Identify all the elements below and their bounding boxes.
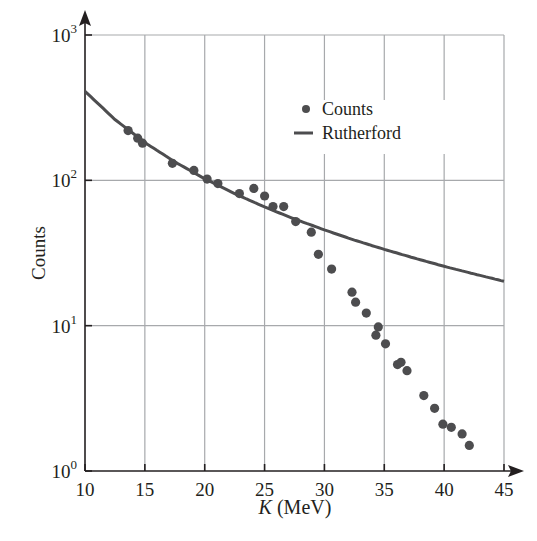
data-point (371, 331, 380, 340)
legend-label: Counts (322, 99, 373, 119)
data-point (347, 288, 356, 297)
data-point (314, 250, 323, 259)
data-point (351, 298, 360, 307)
x-tick-label: 15 (135, 479, 154, 500)
y-axis-label: Counts (28, 226, 49, 280)
y-tick-label: 101 (52, 312, 78, 337)
data-point (402, 366, 411, 375)
data-point (203, 175, 212, 184)
y-tick-label: 102 (52, 166, 78, 191)
chart-svg: 1015202530354045 100101102103 CountsRuth… (0, 0, 537, 541)
data-point (124, 126, 133, 135)
x-axis-label: K (MeV) (258, 496, 332, 519)
data-point (374, 322, 383, 331)
y-axis-ticks: 100101102103 (52, 21, 93, 482)
legend-dot-icon (302, 105, 310, 113)
data-point (235, 189, 244, 198)
data-point (291, 217, 300, 226)
rutherford-scattering-chart: 1015202530354045 100101102103 CountsRuth… (0, 0, 537, 541)
x-tick-label: 35 (375, 479, 394, 500)
counts-points (124, 126, 474, 450)
data-point (419, 391, 428, 400)
data-point (307, 228, 316, 237)
y-tick-label: 100 (52, 457, 78, 482)
data-point (438, 420, 447, 429)
data-point (268, 202, 277, 211)
data-point (138, 139, 147, 148)
data-point (396, 358, 405, 367)
x-tick-label: 45 (495, 479, 514, 500)
data-point (458, 429, 467, 438)
data-point (327, 265, 336, 274)
legend: CountsRutherford (292, 99, 452, 154)
data-point (447, 423, 456, 432)
data-point (168, 159, 177, 168)
data-point (213, 179, 222, 188)
data-point (465, 441, 474, 450)
data-point (430, 404, 439, 413)
y-tick-label: 103 (52, 21, 78, 46)
data-point (249, 184, 258, 193)
data-point (381, 339, 390, 348)
x-tick-label: 10 (76, 479, 95, 500)
x-tick-label: 40 (435, 479, 454, 500)
legend-label: Rutherford (322, 123, 401, 143)
data-point (260, 191, 269, 200)
axes (79, 10, 524, 477)
data-point (189, 166, 198, 175)
data-point (279, 202, 288, 211)
data-point (362, 309, 371, 318)
x-tick-label: 20 (195, 479, 214, 500)
x-axis-ticks: 1015202530354045 (76, 464, 514, 500)
